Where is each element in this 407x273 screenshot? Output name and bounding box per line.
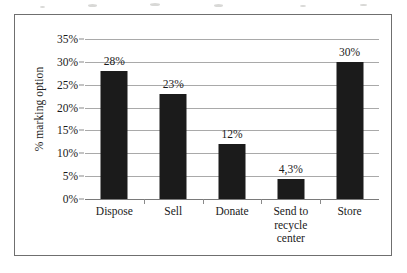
bar[interactable]: [160, 94, 187, 199]
y-axis-tick-label: 0%: [38, 193, 78, 205]
bar[interactable]: [277, 179, 304, 199]
bar-group: 30%: [320, 39, 379, 199]
y-tick-mark: [79, 84, 84, 85]
y-tick-mark: [79, 153, 84, 154]
scan-speck: [150, 3, 160, 6]
x-axis-category-labels: DisposeSellDonateSend torecyclecenterSto…: [85, 205, 379, 265]
x-axis-category-label: Store: [320, 205, 379, 219]
y-axis-tick-label: 15%: [38, 124, 78, 136]
y-axis-tick-label: 25%: [38, 79, 78, 91]
x-axis-category-label: Dispose: [85, 205, 144, 219]
bar-value-label: 4,3%: [279, 163, 303, 175]
y-tick-mark: [79, 61, 84, 62]
scan-speck: [214, 4, 223, 7]
x-axis-tick-mark: [144, 199, 145, 204]
scan-speck: [300, 5, 306, 7]
y-axis-tick-label: 20%: [38, 102, 78, 114]
bar-value-label: 23%: [163, 78, 184, 90]
y-axis-tick-label: 10%: [38, 147, 78, 159]
chart-figure-frame: % marking option 0%5%10%15%20%25%30%35%2…: [14, 14, 392, 256]
bar[interactable]: [101, 71, 128, 199]
bar[interactable]: [336, 62, 363, 199]
y-tick-mark: [79, 176, 84, 177]
bar-group: 4,3%: [261, 39, 320, 199]
scan-speck: [88, 4, 97, 7]
x-axis-tick-mark: [261, 199, 262, 204]
y-axis-tick-label: 30%: [38, 56, 78, 68]
x-axis-category-label: Donate: [203, 205, 262, 219]
bar-group: 28%: [85, 39, 144, 199]
scan-speck: [40, 6, 45, 8]
scan-artifacts: [0, 0, 407, 14]
x-axis-tick-mark: [203, 199, 204, 204]
bar[interactable]: [218, 144, 245, 199]
axis-baseline: [85, 199, 379, 200]
bar-value-label: 28%: [104, 55, 125, 67]
bar-group: 12%: [203, 39, 262, 199]
bar-value-label: 30%: [339, 46, 360, 58]
bar-value-label: 12%: [221, 128, 242, 140]
bar-group: 23%: [144, 39, 203, 199]
x-axis-tick-mark: [320, 199, 321, 204]
y-tick-mark: [79, 107, 84, 108]
x-axis-category-label: Send torecyclecenter: [261, 205, 320, 246]
y-axis-tick-label: 35%: [38, 33, 78, 45]
plot-area: 0%5%10%15%20%25%30%35%28%23%12%4,3%30%: [85, 39, 379, 199]
y-tick-mark: [79, 130, 84, 131]
y-tick-mark: [79, 39, 84, 40]
scan-speck: [360, 4, 367, 6]
y-axis-tick-label: 5%: [38, 170, 78, 182]
x-axis-category-label: Sell: [144, 205, 203, 219]
y-tick-mark: [79, 199, 84, 200]
